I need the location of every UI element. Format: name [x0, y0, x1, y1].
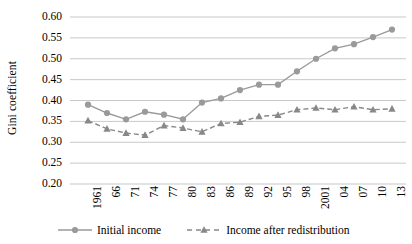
data-point-marker — [123, 116, 129, 122]
y-tick-label: 0.30 — [42, 137, 62, 149]
x-tick-label: 2001 — [320, 186, 332, 209]
y-axis-title-label: Gini coefficient — [6, 61, 18, 135]
legend-item-2[interactable]: Income after redistribution — [187, 224, 349, 236]
y-tick-label: 0.25 — [42, 157, 62, 169]
data-point-marker — [142, 109, 148, 115]
data-point-marker — [180, 116, 186, 122]
x-tick-label: 80 — [187, 186, 199, 198]
chart-legend: Initial incomeIncome after redistributio… — [58, 220, 406, 240]
data-point-marker — [370, 34, 376, 40]
x-tick-label: 66 — [111, 186, 123, 198]
x-tick-label: 92 — [263, 186, 275, 198]
plot-area — [70, 0, 406, 196]
legend-triangle-marker-icon — [187, 224, 221, 236]
x-tick-label: 10 — [377, 186, 389, 198]
data-point-marker — [199, 99, 205, 105]
y-tick-label: 0.40 — [42, 95, 62, 107]
x-tick-label: 13 — [396, 186, 408, 198]
data-point-marker — [161, 112, 167, 118]
data-point-marker — [85, 102, 91, 108]
x-tick-label: 95 — [282, 186, 294, 198]
series-line — [88, 30, 392, 120]
x-tick-label: 89 — [244, 186, 256, 198]
data-point-marker — [332, 45, 338, 51]
data-point-marker — [256, 82, 262, 88]
data-point-marker — [275, 82, 281, 88]
x-tick-label: 71 — [130, 186, 142, 198]
data-point-marker — [350, 103, 357, 110]
data-point-marker — [388, 105, 395, 112]
plot-svg — [70, 0, 406, 196]
data-point-marker — [255, 113, 262, 120]
legend-label: Income after redistribution — [226, 224, 349, 236]
x-tick-label: 04 — [339, 186, 351, 198]
y-tick-label: 0.55 — [42, 32, 62, 44]
data-point-marker — [218, 95, 224, 101]
y-tick-label: 0.20 — [42, 178, 62, 190]
y-tick-label: 0.35 — [42, 116, 62, 128]
gini-coefficient-line-chart: Gini coefficient 0.600.550.500.450.400.3… — [0, 0, 412, 244]
legend-circle-marker-icon — [58, 224, 92, 236]
x-tick-label: 07 — [358, 186, 370, 198]
data-point-marker — [294, 68, 300, 74]
x-tick-label: 98 — [301, 186, 313, 198]
data-point-marker — [160, 122, 167, 129]
data-point-marker — [84, 117, 91, 124]
data-point-marker — [351, 41, 357, 47]
y-axis-title: Gini coefficient — [0, 0, 24, 196]
x-tick-label: 74 — [149, 186, 161, 198]
data-point-marker — [122, 129, 129, 136]
y-tick-label: 0.50 — [42, 53, 62, 65]
legend-label: Initial income — [97, 224, 161, 236]
x-tick-label: 1961 — [92, 186, 104, 209]
data-point-marker — [313, 56, 319, 62]
data-point-marker — [217, 120, 224, 127]
series-2 — [84, 103, 395, 138]
data-point-marker — [237, 87, 243, 93]
y-axis-tick-labels: 0.600.550.500.450.400.350.300.250.20 — [24, 0, 66, 196]
x-tick-label: 86 — [225, 186, 237, 198]
y-tick-label: 0.60 — [42, 11, 62, 23]
y-tick-label: 0.45 — [42, 74, 62, 86]
x-tick-label: 77 — [168, 186, 180, 198]
x-tick-label: 83 — [206, 186, 218, 198]
data-point-marker — [104, 110, 110, 116]
legend-item-1[interactable]: Initial income — [58, 224, 161, 236]
series-1 — [85, 26, 395, 122]
data-point-marker — [389, 26, 395, 32]
